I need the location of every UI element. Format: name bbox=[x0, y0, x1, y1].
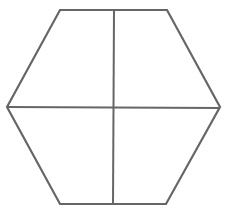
horizontal-divider bbox=[7, 107, 220, 108]
hexagon-diagram bbox=[0, 0, 229, 209]
